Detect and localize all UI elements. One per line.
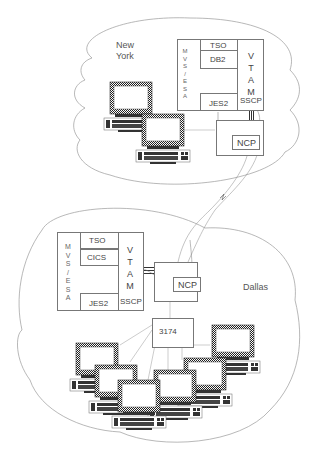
- ny-vtam-label: V T A M: [246, 50, 256, 98]
- ny-city-label: New York: [116, 40, 134, 62]
- dallas-mvs-char: S: [64, 260, 72, 269]
- ny-mvs-char: V: [181, 56, 189, 64]
- ny-ncp-label: NCP: [237, 138, 256, 148]
- ny-mvs-char: S: [181, 86, 189, 94]
- diagram-canvas: [0, 0, 313, 460]
- dallas-city-label: Dallas: [243, 282, 268, 293]
- ny-mvs-char: S: [181, 63, 189, 71]
- dallas-ncp-box: NCP: [173, 277, 201, 292]
- dallas-cics-box: CICS: [80, 249, 119, 266]
- dallas-3174-box: 3174: [152, 318, 194, 348]
- ny-mvs-char: M: [181, 48, 189, 56]
- ny-db2-box: DB2: [200, 50, 238, 69]
- ny-vtam-char: T: [246, 62, 256, 74]
- ny-mvs-char: E: [181, 78, 189, 86]
- ny-tso-label: TSO: [210, 41, 226, 50]
- dallas-vtam-label: V T A M: [125, 244, 135, 292]
- dallas-jes2-label: JES2: [89, 299, 108, 308]
- dallas-mvs-char: V: [64, 252, 72, 261]
- dallas-mvs-char: A: [64, 294, 72, 303]
- dallas-vtam-char: V: [125, 244, 135, 256]
- ny-city-line1: New: [116, 40, 134, 51]
- dallas-tso-label: TSO: [89, 236, 105, 245]
- dallas-mvs-char: /: [64, 269, 72, 278]
- ny-vtam-char: V: [246, 50, 256, 62]
- dallas-mvs-char: M: [64, 243, 72, 252]
- dallas-ncp-label: NCP: [178, 280, 197, 290]
- ny-terminal-2: [136, 114, 190, 164]
- dallas-mvs-esa-label: M V S / E S A: [64, 243, 72, 303]
- dallas-vtam-char: T: [125, 256, 135, 268]
- dallas-vtam-char: M: [125, 280, 135, 292]
- ny-mvs-esa-label: M V S / E S A: [181, 48, 189, 101]
- ny-db2-label: DB2: [210, 55, 226, 64]
- ny-city-line2: York: [116, 51, 134, 62]
- dallas-jes2-box: JES2: [80, 293, 119, 311]
- ny-mvs-char: /: [181, 71, 189, 79]
- dallas-vtam-char: A: [125, 268, 135, 280]
- dallas-sscp-label: SSCP: [120, 298, 142, 306]
- dallas-cics-label: CICS: [87, 253, 106, 262]
- dallas-mvs-char: E: [64, 277, 72, 286]
- ny-jes2-label: JES2: [209, 99, 228, 108]
- ny-mvs-char: A: [181, 93, 189, 101]
- ny-jes2-box: JES2: [200, 93, 238, 111]
- ny-vtam-char: A: [246, 74, 256, 86]
- dallas-mvs-char: S: [64, 286, 72, 295]
- dallas-terminal-6: [112, 380, 166, 430]
- dallas-3174-label: 3174: [159, 327, 177, 336]
- ny-ncp-box: NCP: [232, 135, 260, 150]
- ny-sscp-label: SSCP: [240, 97, 262, 105]
- dallas-tso-box: TSO: [80, 232, 119, 249]
